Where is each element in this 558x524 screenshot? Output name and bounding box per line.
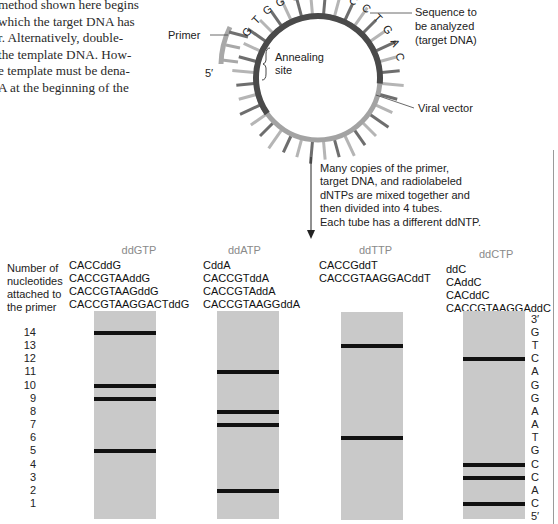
gel-band	[94, 331, 156, 335]
base-spoke	[239, 95, 256, 100]
base-spoke	[240, 105, 260, 114]
gel-band	[463, 357, 525, 361]
sequence-base: A	[528, 365, 542, 377]
primer-5prime-label: 5′	[205, 67, 213, 79]
ddntp-label: ddGTP	[59, 244, 219, 256]
target-label: be analyzed	[415, 20, 474, 32]
sequence-base: C	[528, 458, 542, 470]
base-spoke	[236, 84, 254, 86]
gel-band	[94, 449, 156, 453]
gel-band	[217, 410, 279, 414]
sequence-base: C	[528, 352, 542, 364]
base-spoke	[232, 71, 254, 73]
sequence-base: C	[528, 471, 542, 483]
base-spoke	[244, 43, 260, 51]
nucleotide-count: 4	[6, 458, 36, 470]
base-spoke	[335, 0, 340, 16]
sequence-base: A	[528, 484, 542, 496]
step-line: dNTPs are mixed together and	[320, 189, 481, 202]
base-spoke	[324, 142, 326, 160]
lane-header-ddgtp: ddGTP CACCddG CACCGTAAddG CACCGTAAGddG C…	[69, 244, 219, 311]
gel-band	[217, 489, 279, 493]
nucleotide-count: 8	[6, 405, 36, 417]
ddntp-label: ddTTP	[359, 244, 439, 256]
sequence-base: G	[528, 444, 542, 456]
nucleotide-count: 7	[6, 418, 36, 430]
sequence-base: A	[528, 418, 542, 430]
lane-header-ddttp: ddTTP CACCGddT CACCGTAAGGACddT	[319, 244, 439, 285]
base-spoke	[382, 71, 400, 73]
product-sequence: CAddC	[446, 276, 558, 289]
product-sequence: CACCGTAAddG	[69, 272, 219, 285]
base-spoke	[283, 136, 291, 152]
target-base-letter: A	[388, 37, 402, 49]
ddntp-label: ddCTP	[479, 248, 558, 260]
axis-title-line: nucleotides	[7, 275, 63, 288]
sequence-base: T	[528, 431, 542, 443]
gel-lane-ddatp	[217, 311, 279, 519]
five-prime-label: 5′	[528, 510, 542, 522]
page-edge-line	[553, 150, 554, 524]
target-base-letter: C	[394, 51, 408, 62]
lane-header-ddctp: ddCTP ddC CAddC CACddC CACCGTAAGGAddC	[446, 248, 558, 315]
gel-band	[463, 476, 525, 480]
product-sequence: CACCGTAAGGACTddG	[69, 298, 219, 311]
gel-band	[341, 436, 403, 440]
axis-title-line: Number of	[7, 262, 63, 275]
nucleotide-count: 12	[6, 352, 36, 364]
base-spoke	[269, 130, 282, 148]
sequence-base: A	[528, 405, 542, 417]
base-spoke	[382, 84, 404, 86]
gel-band	[341, 344, 403, 348]
lane-header-ddatp: ddATP CddA CACCGTddA CACCGTAddA CACCGTAA…	[203, 244, 323, 311]
base-spoke	[297, 0, 302, 16]
product-sequence: ddC	[446, 263, 558, 276]
target-base-letter: C	[347, 0, 359, 8]
sequence-base: G	[528, 392, 542, 404]
base-spoke	[260, 123, 273, 136]
product-sequence: CACddC	[446, 289, 558, 302]
gel-band	[217, 423, 279, 427]
base-spoke	[363, 123, 376, 136]
nucleotide-count: 1	[6, 497, 36, 509]
base-spoke	[239, 57, 256, 62]
step-line: then divided into 4 tubes.	[320, 202, 481, 215]
product-sequence: CACCGTAAGGACddT	[319, 272, 439, 285]
product-sequence: CACCGTAddA	[203, 285, 323, 298]
product-sequence: CACCddG	[69, 259, 219, 272]
gel-lane-ddctp	[463, 311, 525, 519]
base-spoke	[376, 105, 392, 113]
step-description: Many copies of the primer, target DNA, a…	[320, 162, 481, 229]
base-spoke	[311, 0, 313, 14]
target-label: Sequence to	[415, 6, 477, 18]
sequence-base: C	[528, 497, 542, 509]
product-sequence: CACCGTddA	[203, 272, 323, 285]
gel-lane-ddgtp	[94, 311, 156, 519]
nucleotide-count: 13	[6, 339, 36, 351]
target-label: (target DNA)	[415, 34, 477, 46]
gel-band	[94, 384, 156, 388]
base-spoke	[345, 136, 354, 156]
arrow-down-icon	[307, 230, 315, 239]
base-spoke	[251, 115, 266, 125]
gel-band	[217, 370, 279, 374]
nucleotide-count: 6	[6, 431, 36, 443]
axis-title: Number of nucleotides attached to the pr…	[7, 262, 63, 314]
base-spoke	[324, 0, 326, 14]
nucleotide-count: 9	[6, 392, 36, 404]
nucleotide-count: 5	[6, 444, 36, 456]
product-sequence: CddA	[203, 259, 323, 272]
axis-title-line: attached to	[7, 288, 63, 301]
product-sequence: CACCGddT	[319, 259, 439, 272]
nucleotide-count: 3	[6, 471, 36, 483]
annealing-label: site	[275, 64, 292, 76]
product-sequence: CACCGTAAGGddA	[203, 298, 323, 311]
three-prime-label: 3′	[528, 313, 542, 325]
sequence-base: G	[528, 379, 542, 391]
step-line: Each tube has a different ddNTP.	[320, 216, 481, 229]
ddntp-label: ddATP	[228, 244, 323, 256]
gel-band	[94, 397, 156, 401]
axis-title-line: the primer	[7, 301, 63, 314]
vector-label: Viral vector	[418, 102, 473, 114]
annealing-label: Annealing	[275, 51, 324, 63]
